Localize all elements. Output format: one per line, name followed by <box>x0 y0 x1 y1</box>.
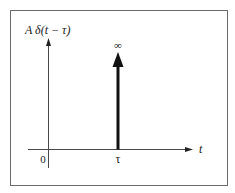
impulse-amplitude-label: ∞ <box>114 39 122 51</box>
origin-label: 0 <box>40 153 46 165</box>
impulse-position-label: τ <box>116 152 121 166</box>
impulse-diagram: A δ(t − τ) ∞ 0 τ t <box>0 0 235 193</box>
y-axis-label: A δ(t − τ) <box>24 23 70 37</box>
